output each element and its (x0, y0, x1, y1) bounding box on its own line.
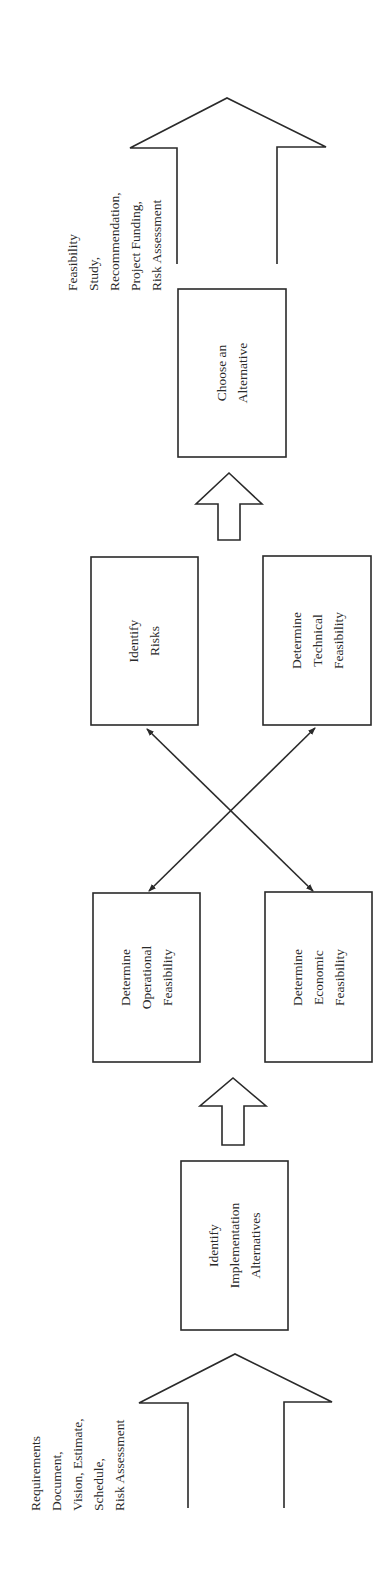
box-text-line: Economic (308, 949, 329, 1006)
input-label-line: Document, (46, 1418, 67, 1511)
box-text-line: Choose an (211, 343, 232, 404)
small-block-arrow-2 (196, 473, 262, 540)
link-technical-operational (149, 728, 315, 891)
input-label: Requirements Document, Vision, Estimate,… (25, 1418, 130, 1511)
box-text-line: Determine (287, 949, 308, 1006)
box-text-line: Alternative (232, 343, 253, 404)
box-text-line: Technical (307, 612, 328, 669)
box-choose-label: Choose an Alternative (178, 289, 286, 457)
box-risks-label: Identify Risks (91, 557, 198, 725)
box-operational-label: Determine Operational Feasibility (93, 893, 200, 1062)
input-label-line: Schedule, (88, 1418, 109, 1511)
output-label: Feasibility Study, Recommendation, Proje… (62, 192, 167, 291)
output-label-line: Project Funding, (125, 192, 146, 291)
small-block-arrow-1 (200, 1078, 266, 1145)
box-text-line: Feasibility (329, 949, 350, 1006)
input-label-line: Requirements (25, 1418, 46, 1511)
input-label-line: Risk Assessment (109, 1418, 130, 1511)
output-label-line: Recommendation, (104, 192, 125, 291)
box-text-line: Feasibility (328, 612, 349, 669)
box-technical-label: Determine Technical Feasibility (263, 556, 371, 725)
box-text-line: Alternatives (245, 1203, 266, 1288)
box-text-line: Feasibility (157, 946, 178, 1010)
output-label-line: Feasibility (62, 192, 83, 291)
input-block-arrow (139, 1354, 332, 1508)
input-label-line: Vision, Estimate, (67, 1418, 88, 1511)
box-text-line: Identify (124, 620, 145, 663)
box-economic-label: Determine Economic Feasibility (265, 892, 372, 1062)
box-text-line: Risks (145, 620, 166, 663)
box-text-line: Determine (286, 612, 307, 669)
box-text-line: Implementation (224, 1203, 245, 1288)
box-text-line: Identify (203, 1203, 224, 1288)
box-text-line: Determine (115, 946, 136, 1010)
output-label-line: Study, (83, 192, 104, 291)
diagram-canvas (0, 0, 381, 1593)
box-text-line: Operational (136, 946, 157, 1010)
box-identify-alternatives-label: Identify Implementation Alternatives (181, 1161, 288, 1330)
output-label-line: Risk Assessment (146, 192, 167, 291)
